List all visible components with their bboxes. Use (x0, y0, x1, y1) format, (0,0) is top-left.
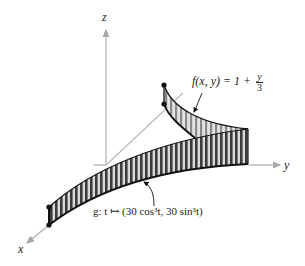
function-pointer-arrow (194, 93, 202, 112)
endpoint-dot (46, 222, 51, 227)
curve-label: g: t ↦ (30 cos³t, 30 sin³t) (93, 205, 203, 218)
endpoint-dot (161, 82, 166, 87)
x-axis (27, 225, 49, 243)
endpoint-dot (161, 101, 166, 106)
function-label: f(x, y) = 1 + y3 (192, 72, 263, 93)
function-label-fraction: y3 (256, 72, 262, 93)
function-label-lhs: f(x, y) = 1 + (192, 74, 254, 88)
diagram-canvas (0, 0, 305, 266)
x-axis-label: x (18, 242, 23, 257)
z-axis-label: z (102, 10, 107, 25)
y-axis-label: y (284, 158, 289, 173)
surface-diagram: z y x f(x, y) = 1 + y3 g: t ↦ (30 cos³t,… (0, 0, 305, 266)
fraction-denominator: 3 (256, 83, 262, 93)
endpoint-dot (46, 204, 51, 209)
curve-pointer-arrow (144, 182, 154, 206)
